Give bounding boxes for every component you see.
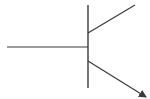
transistor-diagram [0, 0, 150, 99]
emitter-lead [88, 61, 146, 97]
collector-lead [88, 5, 135, 33]
